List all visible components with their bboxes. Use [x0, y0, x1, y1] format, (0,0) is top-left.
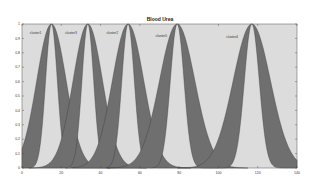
y-tick-label: 0.4 — [15, 109, 20, 113]
y-tick-label: 0.5 — [15, 94, 20, 98]
y-tick-label: 0.7 — [15, 65, 20, 69]
chart-title: Blood Urea — [147, 16, 174, 22]
cluster-label: cluster4 — [226, 35, 238, 39]
y-tick-label: 0.2 — [15, 137, 20, 141]
cluster-label: cluster3 — [65, 31, 77, 35]
y-tick-label: 0.3 — [15, 123, 20, 127]
cluster-label: cluster2 — [106, 31, 118, 35]
x-tick-label: 20 — [59, 171, 63, 175]
y-tick-label: 0.1 — [15, 152, 20, 156]
y-tick-label: 0.9 — [15, 37, 20, 41]
y-tick-label: 0.8 — [15, 51, 20, 55]
cluster-label: cluster1 — [30, 31, 42, 35]
x-tick-label: 100 — [216, 171, 222, 175]
x-tick-label: 80 — [177, 171, 181, 175]
chart: Blood Urea cluster1cluster3cluster2clust… — [0, 0, 317, 184]
cluster-label: cluster5 — [156, 34, 168, 38]
y-tick-label: 1 — [18, 22, 20, 26]
x-tick-label: 0 — [21, 171, 23, 175]
y-tick-label: 0.6 — [15, 80, 20, 84]
x-tick-label: 60 — [138, 171, 142, 175]
x-tick-label: 120 — [255, 171, 261, 175]
x-tick-label: 140 — [294, 171, 300, 175]
y-tick-label: 0 — [18, 166, 20, 170]
x-tick-label: 40 — [99, 171, 103, 175]
